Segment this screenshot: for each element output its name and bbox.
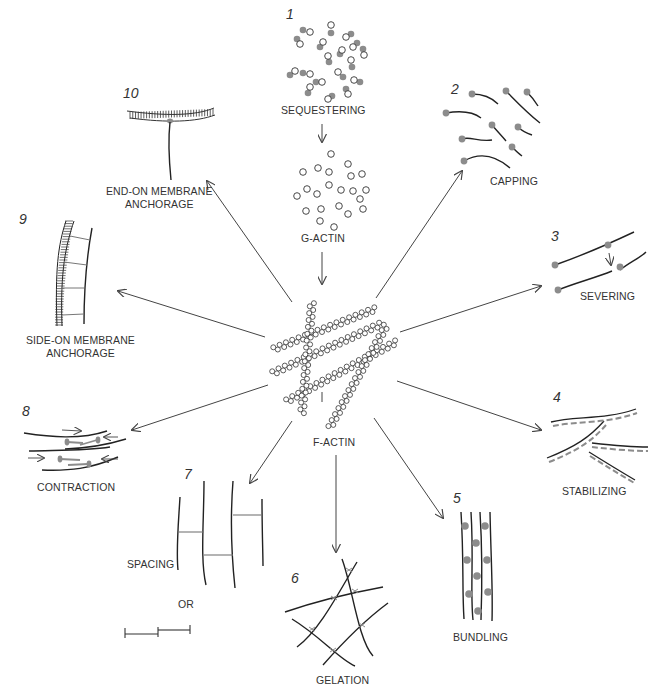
label-side-on-line1: SIDE-ON MEMBRANE [26, 334, 135, 347]
arrow-to-capping [376, 171, 462, 298]
number-3: 3 [551, 228, 559, 244]
number-9: 9 [19, 211, 27, 227]
arrow-to-end-on-anchorage [207, 181, 292, 302]
gelation-illustration [285, 559, 388, 666]
label-contraction: CONTRACTION [37, 481, 115, 494]
arrow-to-contraction [132, 385, 268, 430]
capping-illustration [443, 88, 540, 168]
label-end-on-membrane-anchorage: END-ON MEMBRANE ANCHORAGE [106, 185, 213, 211]
label-capping: CAPPING [490, 175, 538, 188]
f-actin-filaments [270, 301, 398, 429]
label-side-on-membrane-anchorage: SIDE-ON MEMBRANE ANCHORAGE [26, 334, 135, 360]
stabilizing-illustration [547, 409, 648, 484]
arrow-to-bundling [374, 418, 443, 518]
sequestering-illustration [287, 22, 368, 103]
arrow-to-side-on-anchorage [118, 291, 265, 337]
number-6: 6 [291, 570, 299, 586]
severing-illustration [552, 232, 646, 293]
number-2: 2 [451, 81, 459, 97]
label-f-actin: F-ACTIN [313, 436, 355, 449]
label-g-actin: G-ACTIN [301, 232, 345, 245]
g-actin-monomers [294, 151, 370, 231]
label-gelation: GELATION [316, 674, 369, 687]
label-bundling: BUNDLING [453, 631, 508, 644]
label-severing: SEVERING [580, 290, 635, 303]
bundling-illustration [461, 512, 492, 621]
number-5: 5 [453, 490, 461, 506]
number-8: 8 [22, 403, 30, 419]
side-on-anchorage-illustration [55, 221, 92, 326]
arrow-to-spacing [250, 421, 292, 483]
number-4: 4 [553, 389, 561, 405]
arrow-to-stabilizing [397, 381, 541, 430]
label-or: OR [178, 598, 194, 611]
label-sequestering: SEQUESTERING [281, 104, 366, 117]
label-end-on-line1: END-ON MEMBRANE [106, 185, 213, 198]
label-end-on-line2: ANCHORAGE [106, 198, 213, 211]
end-on-anchorage-illustration [127, 108, 227, 180]
actin-binding-protein-diagram: 1 SEQUESTERING G-ACTIN 2 CAPPING 3 SEVER… [0, 0, 665, 699]
number-10: 10 [123, 85, 139, 101]
arrow-to-severing [400, 286, 541, 332]
number-7: 7 [184, 466, 192, 482]
label-side-on-line2: ANCHORAGE [26, 347, 135, 360]
contraction-illustration [24, 430, 126, 470]
number-1: 1 [286, 6, 294, 22]
label-spacing: SPACING [127, 558, 174, 571]
label-stabilizing: STABILIZING [562, 485, 627, 498]
